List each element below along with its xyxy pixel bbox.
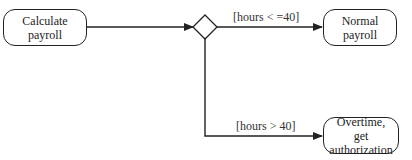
guard-label-overtime: [hours > 40] (236, 119, 295, 134)
node-normal-payroll[interactable]: Normal payroll (323, 9, 397, 46)
node-overtime-authorization[interactable]: Overtime, get authorization (323, 117, 399, 154)
node-label: Normal payroll (324, 14, 396, 42)
guard-label-normal: [hours < =40] (233, 10, 299, 25)
node-label: Overtime, get authorization (324, 115, 398, 157)
node-calculate-payroll[interactable]: Calculate payroll (3, 9, 87, 46)
decision-diamond[interactable] (193, 15, 217, 39)
node-label: Calculate payroll (4, 14, 86, 42)
